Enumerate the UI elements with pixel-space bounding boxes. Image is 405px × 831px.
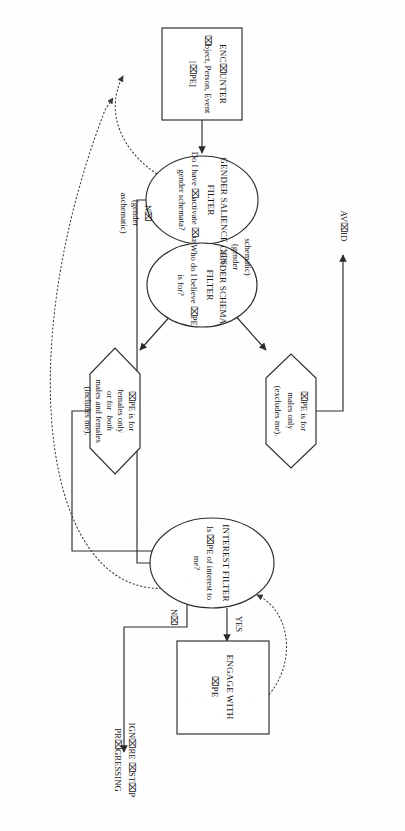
interest-line3: me? <box>192 556 202 570</box>
gender-salience-ellipse <box>146 156 258 244</box>
salience-line2: FILTER <box>206 185 216 217</box>
interest-line2: Is ⌧PE of interest to <box>205 526 215 600</box>
ignore-line2: PR⌧GRESSING <box>113 728 123 792</box>
ignore-line1: IGN⌧RE ⌧ST⌧P <box>127 723 137 798</box>
edge-label-interest-yes: YES <box>234 616 244 632</box>
hex-females-line3-italic: both <box>105 416 115 431</box>
salience-yes-line2: (gender <box>231 244 241 270</box>
hex-females-line3: or for <box>105 391 115 410</box>
salience-yes-line3: schematic) <box>243 238 253 275</box>
edge-hex-males-to-avoid <box>316 255 343 411</box>
hex-females-line2: females only <box>116 389 126 434</box>
node-hex-females-both: ⌧PE is for females only or for both male… <box>83 348 140 474</box>
salience-line3: Do I have ⌧activate ⌧use <box>190 152 200 249</box>
engage-line2: ⌧PE <box>210 676 220 697</box>
hex-females-line3-wrap: or for both <box>105 391 115 431</box>
terminal-avoid: AV⌧ID <box>339 211 349 242</box>
salience-no-line2: (gender <box>131 200 141 226</box>
hex-females-line1: ⌧PE is for <box>127 391 137 431</box>
rotated-diagram-container: ENC⌧UNTER ⌧bject, Person, Event [⌧PE] GE… <box>0 0 405 831</box>
edge-feedback-salience-to-encounter <box>115 76 160 176</box>
edge-feedback-interest-to-encounter <box>50 98 169 588</box>
hex-males-line1: ⌧PE is for <box>299 391 309 431</box>
salience-line1: GENDER SALIENCE <box>219 157 229 243</box>
engage-box <box>177 641 269 734</box>
node-encounter: ENC⌧UNTER ⌧bject, Person, Event [⌧PE] <box>162 28 242 120</box>
node-hex-males-only: ⌧PE is for males only (excludes me). <box>266 354 316 468</box>
hex-females-line4: males and females <box>94 379 104 443</box>
salience-yes-line1: YES <box>219 249 229 265</box>
salience-line4: gender schemata? <box>177 169 187 231</box>
edge-label-interest-no: N⌧ <box>169 609 179 625</box>
encounter-box <box>162 28 242 120</box>
encounter-line1: ENC⌧UNTER <box>218 44 228 105</box>
hex-males-line3: (excludes me). <box>273 386 283 437</box>
edge-schema-to-hex-males <box>233 313 266 350</box>
node-gender-salience-filter: GENDER SALIENCE FILTER Do I have ⌧activa… <box>146 152 258 249</box>
flowchart-svg: ENC⌧UNTER ⌧bject, Person, Event [⌧PE] GE… <box>0 0 405 831</box>
encounter-line3: [⌧PE] <box>188 61 198 87</box>
engage-line1: ENGAGE WITH <box>225 655 235 720</box>
interest-line1: INTEREST FILTER <box>221 524 231 602</box>
node-interest-filter: INTEREST FILTER Is ⌧PE of interest to me… <box>150 518 274 608</box>
salience-no-line1: N⌧ <box>143 205 153 221</box>
hex-females-line5: (includes me). <box>83 386 93 435</box>
salience-no-line3: aschematic) <box>119 192 129 233</box>
terminal-ignore-stop: IGN⌧RE ⌧ST⌧P PR⌧GRESSING <box>113 723 137 798</box>
node-engage: ENGAGE WITH ⌧PE <box>177 641 269 734</box>
schema-line3: Who do I believe ⌧PE <box>189 244 199 326</box>
hex-males-line2: males only <box>286 392 296 430</box>
schema-line2: FILTER <box>205 270 215 302</box>
schema-line4: is for? <box>176 274 186 296</box>
figure-page: ENC⌧UNTER ⌧bject, Person, Event [⌧PE] GE… <box>0 0 405 831</box>
encounter-line2: ⌧bject, Person, Event <box>203 35 213 114</box>
